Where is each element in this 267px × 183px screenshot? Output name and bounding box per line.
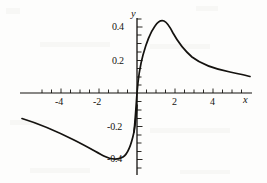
y-tick-label-0.2: 0.2	[112, 55, 124, 66]
x-tick-label--2: -2	[93, 96, 101, 107]
curve-branch-left	[22, 105, 137, 159]
figure-canvas: -4 -2 2 4 0.4 0.2 -0.2 -0.4 y x	[0, 0, 267, 183]
y-tick-label--0.4: -0.4	[107, 153, 122, 164]
x-tick-label-4: 4	[210, 96, 215, 107]
y-axis-label: y	[131, 8, 136, 19]
x-axis-minor-ticks	[42, 89, 242, 94]
curve-branch-right	[134, 21, 250, 132]
x-tick-label-2: 2	[172, 96, 177, 107]
x-tick-label--4: -4	[55, 96, 63, 107]
plot-area	[0, 0, 267, 183]
y-tick-label-0.4: 0.4	[112, 21, 124, 32]
x-axis-label: x	[243, 94, 248, 105]
y-tick-label--0.2: -0.2	[107, 121, 122, 132]
